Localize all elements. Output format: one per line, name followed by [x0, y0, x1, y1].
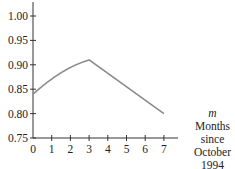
x-tick-label: 6: [139, 143, 151, 155]
x-axis-caption: m Months since October 1994: [190, 107, 235, 169]
y-tick-label: 1.00: [0, 10, 28, 22]
y-tick-label: 0.75: [0, 132, 28, 144]
x-tick-label: 4: [102, 143, 114, 155]
caption-line-1: Months: [190, 120, 235, 133]
caption-line-4: 1994: [190, 159, 235, 169]
data-line: [33, 60, 164, 114]
y-tick-label: 0.95: [0, 34, 28, 46]
caption-line-3: October: [190, 146, 235, 159]
x-tick-label: 7: [158, 143, 170, 155]
x-tick-label: 5: [121, 143, 133, 155]
y-tick-label: 0.90: [0, 59, 28, 71]
caption-line-2: since: [190, 133, 235, 146]
x-tick-label: 2: [64, 143, 76, 155]
y-tick-label: 0.80: [0, 108, 28, 120]
y-tick-label: 0.85: [0, 83, 28, 95]
x-tick-label: 3: [83, 143, 95, 155]
x-tick-label: 0: [27, 143, 39, 155]
x-variable: m: [190, 107, 235, 120]
x-tick-label: 1: [46, 143, 58, 155]
